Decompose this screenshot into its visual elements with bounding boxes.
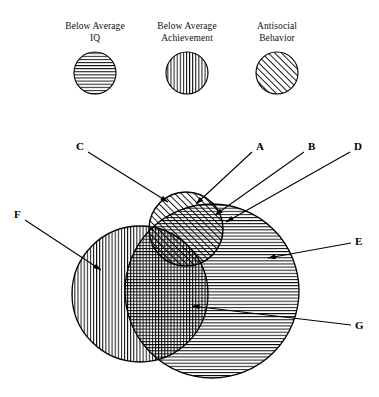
legend-caption-achievement: Below Average Achievement [137,21,237,44]
leader-line-a [196,152,252,204]
legend-swatch-iq [74,52,116,94]
region-label-c: C [76,141,84,152]
venn-diagram-svg [0,0,379,397]
region-label-g: G [355,320,364,331]
leader-line-d [226,152,350,222]
region-label-d: D [354,141,362,152]
legend-caption-iq: Below Average IQ [45,21,145,44]
region-label-e: E [355,236,362,247]
legend-swatch-antisocial [256,52,298,94]
leader-line-b [215,152,304,215]
diagram-canvas: Below Average IQ Below Average Achieveme… [0,0,379,397]
legend-caption-antisocial: Antisocial Behavior [227,21,327,44]
region-label-f: F [14,209,21,220]
region-label-b: B [308,141,315,152]
legend-swatches [74,52,298,94]
leader-line-f [25,220,101,270]
leader-line-c [88,152,168,202]
legend-swatch-achievement [166,52,208,94]
region-label-a: A [256,141,264,152]
